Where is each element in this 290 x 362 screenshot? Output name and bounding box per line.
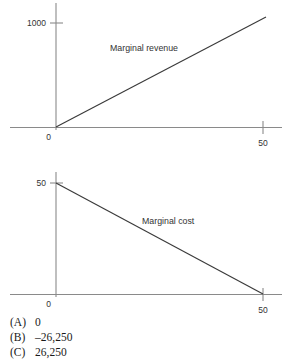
cost-x-tick-label-50: 50 — [258, 305, 268, 315]
cost-series-line — [56, 183, 263, 294]
cost-series-annotation: Marginal cost — [142, 216, 195, 226]
answer-choice-a-value: 0 — [35, 316, 41, 328]
charts-figure: 1000 0 50 Marginal revenue 50 0 50 Margi… — [0, 0, 290, 315]
revenue-x-tick-label-0: 0 — [46, 132, 51, 142]
answer-choice-b-value: –26,250 — [35, 331, 72, 343]
answer-choice-c-letter: (C) — [10, 346, 35, 358]
cost-y-tick-label-50: 50 — [37, 178, 47, 188]
chart-marginal-cost: 50 0 50 Marginal cost — [10, 172, 282, 315]
answer-choice-a[interactable]: (A) 0 — [0, 316, 290, 331]
chart-marginal-revenue: 1000 0 50 Marginal revenue — [10, 3, 282, 148]
answer-choices-list: (A) 0 (B) –26,250 (C) 26,250 — [0, 316, 290, 361]
figure-page: 1000 0 50 Marginal revenue 50 0 50 Margi… — [0, 0, 290, 362]
answer-choice-b[interactable]: (B) –26,250 — [0, 331, 290, 346]
answer-choice-a-letter: (A) — [10, 316, 35, 328]
answer-choice-b-letter: (B) — [10, 331, 35, 343]
revenue-y-tick-label-1000: 1000 — [27, 18, 46, 28]
revenue-x-tick-label-50: 50 — [258, 138, 268, 148]
answer-choice-c[interactable]: (C) 26,250 — [0, 346, 290, 361]
answer-choice-c-value: 26,250 — [35, 346, 67, 358]
revenue-series-line — [56, 17, 266, 127]
cost-x-tick-label-0: 0 — [46, 299, 51, 309]
revenue-series-annotation: Marginal revenue — [110, 43, 178, 53]
